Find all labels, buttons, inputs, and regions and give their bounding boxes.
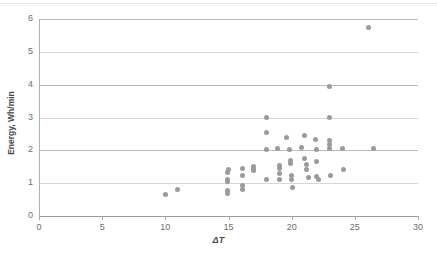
x-tick-mark-30: [418, 216, 419, 220]
x-tick-label-25: 25: [340, 222, 370, 232]
data-point: [328, 173, 333, 178]
data-point: [313, 137, 318, 142]
data-point: [290, 185, 295, 190]
data-point: [226, 167, 231, 172]
data-point: [284, 135, 289, 140]
scan-artifact-line: [0, 3, 437, 4]
x-tick-mark-25: [355, 216, 356, 220]
data-point: [289, 177, 294, 182]
data-point: [277, 177, 282, 182]
data-point: [240, 187, 245, 192]
gridline-y-5: [39, 52, 418, 53]
x-tick-mark-5: [102, 216, 103, 220]
data-point: [225, 179, 230, 184]
gridline-y-2: [39, 150, 418, 151]
scan-artifact-line-secondary: [0, 5, 437, 6]
data-point: [304, 167, 309, 172]
x-axis-title: ΔT: [0, 235, 437, 245]
data-point: [327, 84, 332, 89]
y-tick-label-0: 0: [7, 210, 33, 220]
x-tick-label-20: 20: [277, 222, 307, 232]
x-tick-label-0: 0: [24, 222, 54, 232]
x-tick-label-5: 5: [87, 222, 117, 232]
data-point: [264, 130, 269, 135]
data-point: [264, 177, 269, 182]
data-point: [264, 115, 269, 120]
x-tick-mark-10: [165, 216, 166, 220]
data-point: [341, 167, 346, 172]
data-point: [287, 147, 292, 152]
x-tick-label-10: 10: [150, 222, 180, 232]
gridline-y-4: [39, 85, 418, 86]
data-point: [314, 147, 319, 152]
plot-area: [39, 19, 418, 216]
data-point: [163, 192, 168, 197]
y-tick-label-6: 6: [7, 13, 33, 23]
x-tick-label-15: 15: [214, 222, 244, 232]
data-point: [251, 168, 256, 173]
data-point: [304, 162, 309, 167]
data-point: [306, 175, 311, 180]
y-axis-line: [39, 19, 40, 217]
y-axis-title: Energy, Wh/min: [6, 68, 16, 178]
y-axis-title-wrap: Energy, Wh/min: [0, 40, 22, 200]
gridline-y-3: [39, 118, 418, 119]
data-point: [277, 171, 282, 176]
gridline-y-6: [39, 19, 418, 20]
data-point: [302, 133, 307, 138]
data-point: [302, 156, 307, 161]
data-point: [240, 173, 245, 178]
data-point: [316, 177, 321, 182]
x-tick-mark-20: [292, 216, 293, 220]
scatter-chart: 0123456 051015202530 ΔT Energy, Wh/min: [0, 0, 437, 254]
x-tick-mark-0: [39, 216, 40, 220]
data-point: [240, 166, 245, 171]
data-point: [288, 161, 293, 166]
data-point: [327, 115, 332, 120]
data-point: [314, 159, 319, 164]
data-point: [366, 25, 371, 30]
data-point: [175, 187, 180, 192]
data-point: [340, 146, 345, 151]
x-tick-mark-15: [229, 216, 230, 220]
data-point: [264, 147, 269, 152]
x-tick-label-30: 30: [403, 222, 433, 232]
data-point: [225, 191, 230, 196]
